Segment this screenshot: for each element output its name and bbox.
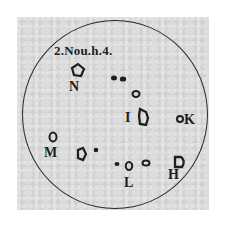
sunspot-n [70, 62, 86, 78]
label-l: L [124, 176, 133, 190]
sunspot-m [47, 130, 59, 144]
label-i: I [125, 111, 130, 125]
label-k: K [184, 113, 195, 127]
sunspot-small [130, 88, 142, 100]
label-m: M [44, 146, 57, 160]
sunspot-l-group [113, 157, 153, 173]
sunspot-pair [108, 72, 130, 84]
label-n: N [69, 80, 79, 94]
drawing-title: 2.Nou.h.4. [54, 44, 112, 57]
sunspot-i [136, 106, 152, 128]
sunspot-center-left [74, 145, 102, 163]
label-h: H [168, 168, 179, 182]
